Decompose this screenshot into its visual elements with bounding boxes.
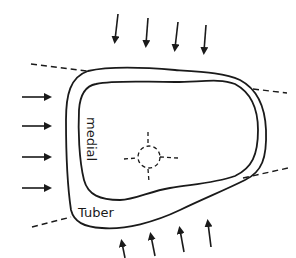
arrow-up-icon <box>151 236 155 256</box>
tuber-label: Tuber <box>77 205 114 220</box>
label-medial: medial <box>84 117 99 161</box>
arrow-up-icon <box>208 223 211 247</box>
arrow-down-icon <box>115 14 118 40</box>
medial-label: medial <box>84 117 99 161</box>
crosshair-icon <box>124 132 178 182</box>
arrow-down-icon <box>146 18 148 44</box>
dashed-line-upper-right <box>253 89 287 93</box>
diagram-canvas: medial Tuber <box>0 0 296 258</box>
bottom-arrows <box>122 223 211 258</box>
arrow-up-icon <box>122 243 125 258</box>
top-arrows <box>115 14 206 51</box>
arrow-up-icon <box>180 230 184 252</box>
dashed-line-upper-left <box>31 64 87 71</box>
inner-contour <box>79 81 258 200</box>
arrow-down-icon <box>204 25 206 51</box>
arrow-down-icon <box>175 22 178 48</box>
dashed-line-lower-left <box>32 217 71 227</box>
left-arrows <box>22 97 48 188</box>
